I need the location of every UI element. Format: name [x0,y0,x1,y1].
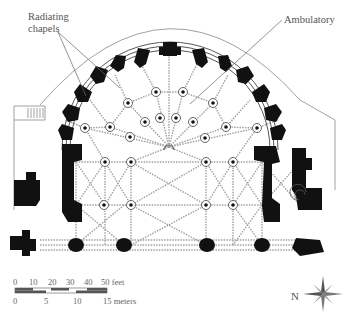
floor-plan-diagram: Radiating chapels Ambulatory 0 10 20 30 … [0,0,354,319]
ambulatory-wall [62,42,278,150]
scale-feet-50: 50 feet [101,277,124,287]
ambulatory-label: Ambulatory [284,14,335,26]
scale-feet-10: 10 [29,277,38,287]
scale-meters-10: 10 [73,296,82,306]
transept-walls [10,144,324,256]
scale-feet-20: 20 [48,277,57,287]
radiating-chapels-label-line2: chapels [28,23,60,35]
scale-feet-0: 0 [13,277,17,287]
floor-plan-drawing [0,0,354,319]
scale-bar [15,288,107,293]
scale-meters-5: 5 [44,296,48,306]
compass-north-label: N [291,290,299,302]
scale-meters-15: 15 meters [103,296,136,306]
scale-feet-40: 40 [84,277,93,287]
columns [81,88,262,210]
nave-piers [30,238,270,252]
radiating-chapels-label-line1: Radiating [28,11,69,23]
stair-left [28,108,43,118]
scale-feet-30: 30 [66,277,75,287]
scale-meters-0: 0 [13,296,17,306]
compass-rose-icon [303,276,343,312]
